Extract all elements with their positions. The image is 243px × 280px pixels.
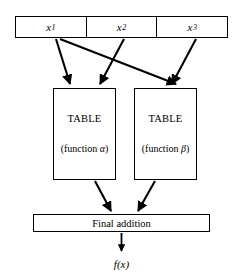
input-label-x2-base: x (117, 21, 122, 33)
input-label-x2-subscript: 2 (122, 23, 126, 32)
table-box-beta: TABLE (function β) (134, 88, 197, 180)
table-alpha-subtitle: (function α) (61, 143, 109, 154)
figure-canvas: x1 x2 x3 TABLE (function α) TABLE (funct… (0, 0, 243, 280)
input-cell-x1: x1 (16, 17, 86, 37)
input-cell-x3: x3 (156, 17, 227, 37)
input-label-x1-base: x (46, 21, 51, 33)
input-label-x1-subscript: 1 (52, 23, 56, 32)
table-box-alpha: TABLE (function α) (53, 88, 116, 180)
input-register: x1 x2 x3 (15, 16, 228, 38)
arrow-x1-to-table-alpha (56, 39, 70, 84)
table-beta-subtitle-suffix: ) (186, 143, 189, 154)
table-alpha-subtitle-suffix: ) (105, 143, 108, 154)
arrow-table-alpha-to-final-addition (95, 181, 111, 211)
table-beta-subtitle-prefix: (function (142, 143, 181, 154)
table-beta-title: TABLE (149, 113, 183, 124)
output-label: f(x) (0, 258, 243, 270)
table-alpha-title: TABLE (68, 113, 102, 124)
input-label-x3-base: x (187, 21, 192, 33)
input-label-x3-subscript: 3 (193, 23, 197, 32)
table-beta-subtitle: (function β) (142, 143, 189, 154)
arrow-table-beta-to-final-addition (138, 181, 155, 211)
final-addition-box: Final addition (33, 214, 210, 232)
table-alpha-subtitle-prefix: (function (61, 143, 100, 154)
connector-arrows-layer (0, 0, 243, 280)
input-cell-x2: x2 (86, 17, 157, 37)
arrow-x1-to-table-beta (60, 39, 176, 84)
arrow-x3-to-table-beta (172, 39, 196, 84)
final-addition-label: Final addition (92, 218, 151, 229)
